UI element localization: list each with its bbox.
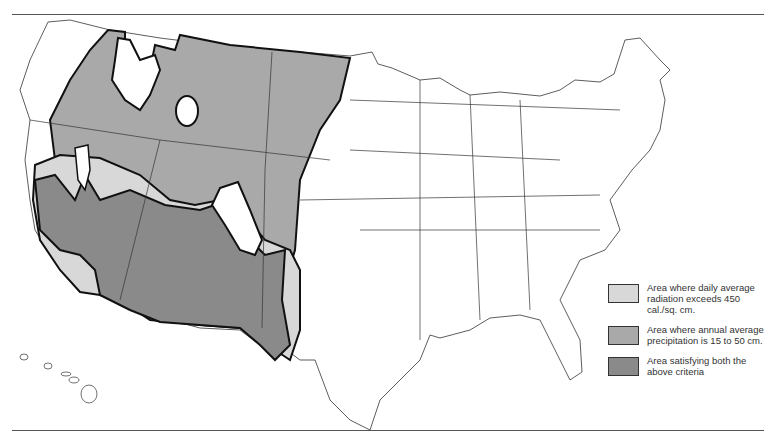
legend-label-both: Area satisfying both the above criteria	[647, 355, 772, 377]
legend-label-precipitation: Area where annual average precipitation …	[647, 324, 772, 346]
legend-item-radiation: Area where daily average radiation excee…	[608, 282, 776, 315]
legend-swatch-radiation	[608, 284, 639, 303]
map-legend: Area where daily average radiation excee…	[608, 282, 776, 386]
legend-item-precipitation: Area where annual average precipitation …	[608, 324, 776, 346]
legend-swatch-precipitation	[608, 326, 639, 345]
hawaii-inset	[20, 354, 97, 403]
legend-item-both: Area satisfying both the above criteria	[608, 355, 776, 377]
bottom-rule	[12, 430, 764, 431]
exclusion-zone-wyoming	[176, 96, 198, 126]
legend-label-radiation: Area where daily average radiation excee…	[647, 282, 772, 315]
legend-swatch-both	[608, 357, 639, 376]
